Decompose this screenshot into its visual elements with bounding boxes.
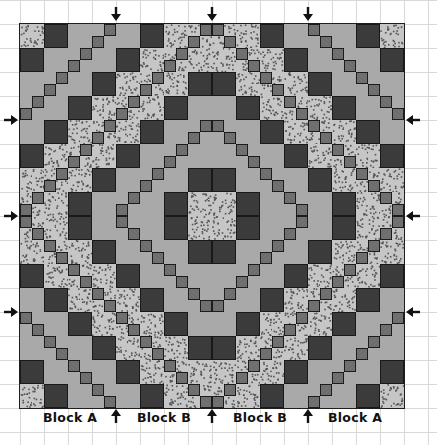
quilt-patch-light [32,288,44,300]
quilt-patch-medium [116,216,128,228]
quilt-patch-dotted [44,168,56,180]
quilt-patch-medium [104,120,116,132]
quilt-patch-dotted [224,204,236,216]
quilt-patch-dark [80,324,92,336]
quilt-patch-medium [176,276,188,288]
quilt-patch-dark [116,144,128,156]
quilt-patch-medium [140,84,152,96]
quilt-patch-light [164,168,176,180]
quilt-patch-medium [212,396,224,408]
quilt-patch-dark [212,252,224,264]
quilt-patch-medium [308,120,320,132]
quilt-patch-light [296,24,308,36]
quilt-patch-light [320,48,332,60]
quilt-patch-light [284,24,296,36]
quilt-patch-light [32,348,44,360]
quilt-patch-light [248,144,260,156]
quilt-patch-dark [392,60,404,72]
quilt-patch-light [80,60,92,72]
quilt-patch-light [272,204,284,216]
quilt-patch-light [152,240,164,252]
quilt-patch-light [260,180,272,192]
quilt-patch-dotted [68,300,80,312]
quilt-patch-light [344,396,356,408]
quilt-patch-medium [380,324,392,336]
quilt-patch-light [332,60,344,72]
quilt-patch-light [80,360,92,372]
quilt-patch-dark [212,180,224,192]
quilt-patch-dark [212,348,224,360]
quilt-patch-light [104,228,116,240]
quilt-patch-dark [152,384,164,396]
quilt-patch-dotted [188,60,200,72]
quilt-patch-light [260,216,272,228]
quilt-patch-dark [308,240,320,252]
quilt-patch-light [380,120,392,132]
quilt-patch-dotted [284,84,296,96]
quilt-patch-dotted [80,300,92,312]
quilt-patch-dotted [116,72,128,84]
quilt-patch-medium [296,312,308,324]
quilt-patch-dotted [200,192,212,204]
quilt-patch-dotted [212,204,224,216]
quilt-patch-dark [176,324,188,336]
quilt-patch-dark [128,60,140,72]
quilt-patch-dotted [272,372,284,384]
quilt-patch-dotted [344,300,356,312]
quilt-patch-light [200,132,212,144]
quilt-patch-dotted [284,336,296,348]
quilt-patch-light [380,84,392,96]
quilt-patch-light [20,132,32,144]
quilt-patch-light [368,108,380,120]
quilt-patch-dotted [68,180,80,192]
quilt-patch-light [152,156,164,168]
quilt-patch-dotted [200,384,212,396]
quilt-patch-dotted [104,108,116,120]
quilt-patch-light [356,48,368,60]
quilt-patch-light [344,348,356,360]
quilt-patch-dotted [56,264,68,276]
quilt-patch-medium [152,348,164,360]
quilt-patch-medium [260,72,272,84]
quilt-patch-light [80,84,92,96]
quilt-patch-medium [212,300,224,312]
quilt-patch-light [200,144,212,156]
quilt-patch-dark [56,36,68,48]
quilt-patch-light [380,348,392,360]
quilt-patch-dark [152,300,164,312]
quilt-patch-dotted [68,144,80,156]
quilt-patch-dotted [320,144,332,156]
quilt-patch-light [32,108,44,120]
quilt-patch-light [356,312,368,324]
quilt-patch-dark [236,228,248,240]
quilt-patch-medium [116,312,128,324]
quilt-patch-dotted [356,264,368,276]
quilt-patch-dotted [272,60,284,72]
quilt-patch-medium [248,264,260,276]
quilt-patch-dotted [128,288,140,300]
quilt-patch-dotted [296,300,308,312]
quilt-patch-light [272,276,284,288]
quilt-patch-dotted [68,120,80,132]
quilt-patch-dotted [284,348,296,360]
quilt-patch-dotted [284,288,296,300]
quilt-patch-dark [308,72,320,84]
quilt-patch-dark [212,84,224,96]
quilt-patch-dark [224,252,236,264]
quilt-patch-dotted [356,180,368,192]
quilt-patch-dotted [176,348,188,360]
quilt-patch-dark [368,384,380,396]
quilt-patch-medium [248,156,260,168]
quilt-patch-light [392,132,404,144]
quilt-patch-dotted [296,336,308,348]
quilt-patch-medium [44,84,56,96]
quilt-patch-dark [380,48,392,60]
quilt-patch-dotted [332,120,344,132]
quilt-patch-medium [56,72,68,84]
quilt-patch-light [200,324,212,336]
quilt-patch-medium [68,360,80,372]
quilt-patch-dotted [164,348,176,360]
quilt-patch-dark [44,120,56,132]
quilt-patch-dark [164,96,176,108]
quilt-patch-dotted [164,36,176,48]
